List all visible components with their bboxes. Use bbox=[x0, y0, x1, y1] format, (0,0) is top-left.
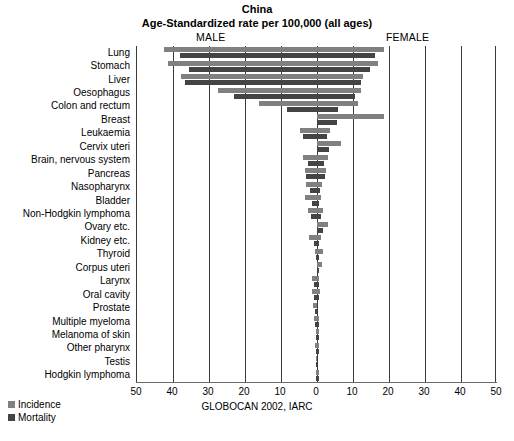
tick-label: 30 bbox=[193, 386, 223, 397]
female-axis-label: FEMALE bbox=[386, 31, 429, 43]
bar-male-inc bbox=[164, 47, 317, 52]
bar-female-inc bbox=[317, 249, 323, 254]
bar-female-mor bbox=[317, 134, 327, 139]
category-label: Cervix uteri bbox=[2, 142, 130, 152]
bar-female-inc bbox=[317, 141, 341, 146]
bar-male-mor bbox=[185, 80, 317, 85]
plot-area bbox=[136, 46, 496, 382]
bar-female-mor bbox=[317, 376, 319, 381]
bar-row bbox=[137, 180, 495, 193]
category-label: Multiple myeloma bbox=[2, 317, 130, 327]
bar-female-inc bbox=[317, 88, 361, 93]
bar-female-mor bbox=[317, 349, 319, 354]
bar-male-inc bbox=[218, 88, 317, 93]
bar-row bbox=[137, 234, 495, 247]
bar-female-mor bbox=[317, 53, 375, 58]
bar-female-mor bbox=[317, 295, 319, 300]
bar-female-mor bbox=[317, 228, 323, 233]
tick-label: 30 bbox=[409, 386, 439, 397]
bar-female-inc bbox=[317, 343, 319, 348]
bar-female-mor bbox=[317, 241, 319, 246]
bar-male-mor bbox=[234, 94, 317, 99]
category-label: Breast bbox=[2, 115, 130, 125]
bar-male-mor bbox=[308, 161, 317, 166]
category-label: Other pharynx bbox=[2, 343, 130, 353]
bar-male-mor bbox=[315, 309, 317, 314]
bar-male-inc bbox=[300, 128, 317, 133]
category-label: Nasopharynx bbox=[2, 182, 130, 192]
bar-male-inc bbox=[308, 208, 317, 213]
bar-row bbox=[137, 46, 495, 59]
bar-female-inc bbox=[317, 182, 322, 187]
bar-female-inc bbox=[317, 329, 319, 334]
bar-row bbox=[137, 154, 495, 167]
bar-female-inc bbox=[317, 370, 319, 375]
bar-row bbox=[137, 140, 495, 153]
bar-female-mor bbox=[317, 255, 319, 260]
bar-row bbox=[137, 207, 495, 220]
bar-female-inc bbox=[317, 262, 322, 267]
tick-label: 0 bbox=[301, 386, 331, 397]
bar-row bbox=[137, 261, 495, 274]
tick-label: 50 bbox=[481, 386, 511, 397]
category-label: Colon and rectum bbox=[2, 101, 130, 111]
bar-male-mor bbox=[310, 188, 317, 193]
legend-item-incidence: Incidence bbox=[8, 398, 61, 411]
category-label: Leukaemia bbox=[2, 128, 130, 138]
tick-label: 40 bbox=[157, 386, 187, 397]
category-label: Kidney etc. bbox=[2, 236, 130, 246]
legend-label-mortality: Mortality bbox=[18, 411, 56, 424]
male-axis-label: MALE bbox=[196, 31, 225, 43]
category-label: Non-Hodgkin lymphoma bbox=[2, 209, 130, 219]
bar-female-mor bbox=[317, 214, 321, 219]
bar-female-mor bbox=[317, 161, 324, 166]
category-label: Stomach bbox=[2, 61, 130, 71]
bar-female-inc bbox=[317, 316, 319, 321]
bar-female-inc bbox=[317, 61, 378, 66]
bar-female-mor bbox=[317, 80, 361, 85]
category-label: Thyroid bbox=[2, 249, 130, 259]
tick-label: 20 bbox=[373, 386, 403, 397]
bar-male-inc bbox=[316, 356, 318, 361]
category-label: Testis bbox=[2, 357, 130, 367]
bar-male-inc bbox=[303, 155, 317, 160]
bar-male-mor bbox=[180, 53, 317, 58]
bar-female-mor bbox=[317, 335, 319, 340]
category-label: Ovary etc. bbox=[2, 222, 130, 232]
title-line-1: China bbox=[0, 2, 514, 16]
bar-female-mor bbox=[317, 201, 319, 206]
bar-female-mor bbox=[317, 107, 338, 112]
bar-female-inc bbox=[317, 47, 384, 52]
bar-female-inc bbox=[317, 289, 320, 294]
title-line-2: Age-Standardized rate per 100,000 (all a… bbox=[0, 16, 514, 30]
bar-female-inc bbox=[317, 276, 319, 281]
legend-label-incidence: Incidence bbox=[18, 398, 61, 411]
bar-row bbox=[137, 328, 495, 341]
bar-female-inc bbox=[317, 168, 326, 173]
bar-row bbox=[137, 355, 495, 368]
bar-female-mor bbox=[317, 120, 337, 125]
tick-label: 50 bbox=[121, 386, 151, 397]
bar-female-mor bbox=[317, 67, 370, 72]
bar-female-inc bbox=[317, 155, 328, 160]
tick-label: 20 bbox=[229, 386, 259, 397]
category-label: Oesophagus bbox=[2, 88, 130, 98]
chart-root: China Age-Standardized rate per 100,000 … bbox=[0, 0, 514, 441]
bar-male-mor bbox=[316, 362, 318, 367]
bar-female-inc bbox=[317, 74, 363, 79]
bar-row bbox=[137, 127, 495, 140]
bar-row bbox=[137, 221, 495, 234]
bar-male-inc bbox=[313, 303, 317, 308]
bar-row bbox=[137, 342, 495, 355]
bar-female-mor bbox=[317, 147, 329, 152]
bar-male-mor bbox=[306, 174, 317, 179]
tick-label: 10 bbox=[265, 386, 295, 397]
tick-label: 40 bbox=[445, 386, 475, 397]
bar-row bbox=[137, 167, 495, 180]
bar-row bbox=[137, 315, 495, 328]
bar-row bbox=[137, 301, 495, 314]
category-label: Brain, nervous system bbox=[2, 155, 130, 165]
bar-male-mor bbox=[303, 134, 317, 139]
bar-male-inc bbox=[305, 195, 317, 200]
bar-female-mor bbox=[317, 282, 319, 287]
